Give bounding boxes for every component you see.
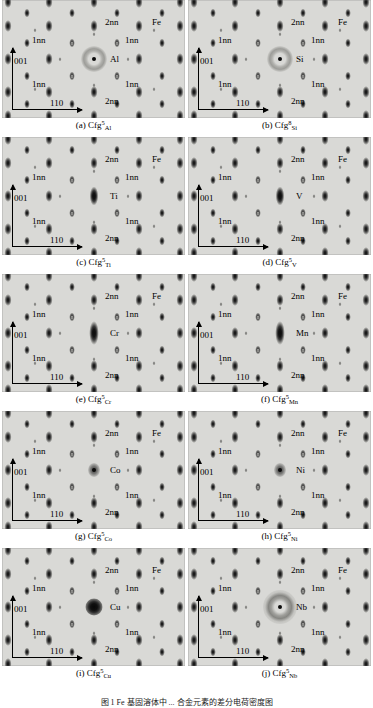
axis-right-arrow-icon bbox=[77, 381, 83, 387]
interstitial-speck bbox=[339, 576, 342, 580]
label-fe: Fe bbox=[338, 292, 347, 301]
fe-atom bbox=[176, 292, 185, 308]
fe-atom bbox=[321, 656, 330, 666]
axis-horizontal-line bbox=[12, 109, 82, 110]
interstitial-speck bbox=[339, 224, 342, 228]
fe-atom bbox=[231, 274, 240, 284]
fe-atom bbox=[276, 382, 285, 392]
fe-atom bbox=[135, 137, 144, 147]
fe-atom bbox=[190, 548, 199, 558]
interstitial-speck bbox=[127, 605, 130, 609]
interstitial-speck bbox=[153, 87, 156, 91]
label-fe: Fe bbox=[152, 18, 161, 27]
interstitial-speck bbox=[116, 41, 119, 45]
fe-atom bbox=[159, 646, 166, 658]
interstitial-speck bbox=[116, 74, 119, 78]
label-solute: Ti bbox=[110, 192, 118, 201]
solute-core bbox=[86, 599, 103, 616]
fe-atom bbox=[231, 292, 240, 308]
fe-atom bbox=[321, 462, 330, 478]
label-1nn-topright: 1nn bbox=[125, 36, 139, 45]
fe-atom bbox=[135, 325, 144, 341]
caption-subscript: Nb bbox=[289, 672, 297, 679]
interstitial-speck bbox=[127, 57, 130, 61]
interstitial-speck bbox=[313, 468, 316, 472]
fe-atom bbox=[362, 548, 371, 558]
fe-atom bbox=[135, 188, 144, 204]
fe-atom bbox=[362, 632, 371, 648]
density-map-panel-g: 2nnFe1nn1nnCo1nn1nn2nn001110(g) Cfg5Co bbox=[2, 411, 185, 548]
interstitial-speck bbox=[339, 165, 342, 169]
fe-atom bbox=[90, 548, 99, 558]
interstitial-speck bbox=[339, 439, 342, 443]
fe-atom bbox=[176, 495, 185, 511]
fe-atom bbox=[190, 18, 199, 34]
label-fe: Fe bbox=[152, 429, 161, 438]
density-map-nb: 2nnFe1nn1nnNb1nn1nn2nn001110 bbox=[188, 548, 371, 666]
fe-atom bbox=[321, 51, 330, 67]
axis-label-110: 110 bbox=[50, 99, 63, 108]
caption-base: Cfg bbox=[88, 394, 102, 404]
axis-horizontal-line bbox=[198, 383, 268, 384]
interstitial-speck bbox=[153, 635, 156, 639]
interstitial-speck bbox=[302, 41, 305, 45]
fe-atom bbox=[176, 632, 185, 648]
interstitial-speck bbox=[339, 302, 342, 306]
interstitial-speck bbox=[127, 194, 130, 198]
interstitial-speck bbox=[127, 468, 130, 472]
caption-subscript: V bbox=[292, 261, 297, 268]
label-2nn-bottom: 2nn bbox=[291, 234, 305, 243]
fe-atom bbox=[255, 281, 262, 293]
fe-atom bbox=[135, 656, 144, 666]
fe-atom bbox=[176, 429, 185, 445]
interstitial-speck bbox=[279, 443, 282, 447]
interstitial-speck bbox=[93, 494, 96, 498]
label-solute: Ni bbox=[296, 466, 305, 475]
fe-atom bbox=[321, 18, 330, 34]
fe-atom bbox=[345, 448, 352, 460]
label-1nn-topleft: 1nn bbox=[218, 584, 232, 593]
label-solute: V bbox=[296, 192, 303, 201]
panel-caption-f: (f) Cfg5Mn bbox=[188, 393, 371, 405]
interstitial-speck bbox=[279, 494, 282, 498]
interstitial-speck bbox=[153, 439, 156, 443]
fe-atom bbox=[159, 235, 166, 247]
interstitial-speck bbox=[34, 302, 37, 306]
fe-atom bbox=[135, 462, 144, 478]
label-1nn-topleft: 1nn bbox=[218, 36, 232, 45]
fe-atom bbox=[362, 155, 371, 171]
solute-core bbox=[278, 468, 282, 472]
fe-atom bbox=[321, 245, 330, 255]
label-1nn-bottomright: 1nn bbox=[311, 491, 325, 500]
fe-atom bbox=[362, 188, 371, 204]
fe-atom bbox=[45, 411, 54, 421]
panel-caption-h: (h) Cfg5Ni bbox=[188, 530, 371, 542]
fe-atom bbox=[159, 372, 166, 384]
caption-subscript: Mn bbox=[289, 398, 298, 405]
interstitial-speck bbox=[302, 452, 305, 456]
fe-atom bbox=[276, 274, 285, 284]
interstitial-speck bbox=[302, 589, 305, 593]
interstitial-speck bbox=[257, 589, 260, 593]
label-1nn-topleft: 1nn bbox=[32, 584, 46, 593]
label-1nn-topleft: 1nn bbox=[218, 310, 232, 319]
fe-atom bbox=[321, 382, 330, 392]
fe-atom bbox=[90, 245, 99, 255]
label-solute: Co bbox=[110, 466, 121, 475]
axis-vertical-line bbox=[198, 185, 199, 247]
caption-prefix: (d) bbox=[262, 257, 273, 267]
fe-atom bbox=[190, 411, 199, 421]
caption-base: Cfg bbox=[275, 257, 289, 267]
panel-caption-a: (a) Cfg5Al bbox=[2, 119, 185, 131]
fe-atom bbox=[159, 174, 166, 186]
label-1nn-bottomright: 1nn bbox=[125, 491, 139, 500]
fe-atom bbox=[362, 656, 371, 666]
interstitial-speck bbox=[257, 41, 260, 45]
fe-atom bbox=[362, 137, 371, 147]
fe-atom bbox=[231, 566, 240, 582]
axis-vertical-line bbox=[12, 596, 13, 658]
density-map-mn: 2nnFe1nn1nnMn1nn1nn2nn001110 bbox=[188, 274, 371, 392]
axis-up-arrow-icon bbox=[10, 595, 16, 601]
fe-atom bbox=[255, 418, 262, 430]
label-2nn-top: 2nn bbox=[105, 155, 119, 164]
